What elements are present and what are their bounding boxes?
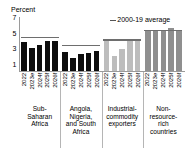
bar: [29, 48, 35, 72]
category-caption-angola-nigeria-south-africa: Angola, Nigeria, and South Africa: [60, 104, 101, 151]
average-line: [144, 30, 182, 31]
x-axis-tick: 2025f: [168, 73, 174, 88]
x-axis-tick: 2025f: [44, 73, 50, 88]
y-axis-tick-1: 1: [13, 61, 17, 68]
bar: [45, 41, 51, 72]
bar-group-industrial-commodity-exporters: [102, 17, 143, 72]
x-axis-tick: 2026f: [52, 73, 58, 88]
x-axis-tick: 2024f: [78, 73, 84, 88]
bar: [145, 30, 151, 72]
average-line: [62, 45, 100, 46]
bar: [86, 53, 92, 72]
x-axis-tick: 2026f: [94, 73, 100, 88]
bar: [70, 58, 76, 72]
x-axis-tick: 2026f: [135, 73, 141, 88]
bar: [21, 42, 27, 72]
bar: [119, 49, 125, 72]
category-caption-industrial-commodity-exporters: Industrial- commodity exporters: [102, 104, 143, 151]
bar: [135, 41, 141, 72]
x-axis-tick: 2025f: [127, 73, 133, 88]
bar: [127, 41, 133, 72]
bar-groups: [19, 17, 184, 72]
average-line: [103, 39, 141, 40]
x-axis-tick: 2022: [21, 73, 27, 86]
bar: [62, 52, 68, 72]
average-line: [21, 37, 59, 38]
bar-chart-figure: Percent 2000-19 average 7 5 3 1: [0, 0, 188, 153]
category-caption-non-resource-rich-countries: Non- resource- rich countries: [143, 104, 184, 151]
y-axis-tick-3: 3: [13, 45, 17, 52]
bar: [37, 45, 43, 72]
category-caption-sub-saharan-africa: Sub- Saharan Africa: [19, 104, 60, 151]
bar: [94, 51, 100, 72]
bar: [161, 30, 167, 72]
x-axis-tick: 2024f: [37, 73, 43, 88]
y-axis-tick-5: 5: [13, 29, 17, 36]
bar: [112, 56, 118, 72]
bar: [52, 41, 58, 72]
category-captions: Sub- Saharan Africa Angola, Nigeria, and…: [19, 104, 184, 151]
x-axis-tick-group-0: 2022 2023e 2024f 2025f 2026f: [19, 73, 60, 103]
x-axis-tick: 2023e: [111, 73, 117, 89]
x-axis-tick: 2024f: [119, 73, 125, 88]
x-axis-tick: 2022: [62, 73, 68, 86]
x-axis-tick: 2023e: [152, 73, 158, 89]
plot-area: 7 5 3 1: [19, 17, 184, 72]
x-axis-tick: 2023e: [70, 73, 76, 89]
x-axis-tick-group-2: 2022 2023e 2024f 2025f 2026f: [102, 73, 143, 103]
bar: [78, 54, 84, 72]
x-axis-tick: 2022: [144, 73, 150, 86]
bar: [104, 41, 110, 72]
x-axis-tick: 2026f: [176, 73, 182, 88]
bar: [153, 30, 159, 72]
x-axis-tick: 2022: [103, 73, 109, 86]
x-axis-tick: 2025f: [86, 73, 92, 88]
x-axis-tick: 2024f: [160, 73, 166, 88]
x-axis-tick-labels: 2022 2023e 2024f 2025f 2026f 2022 2023e …: [19, 73, 184, 103]
x-axis-tick: 2023e: [29, 73, 35, 89]
bar: [176, 30, 182, 72]
y-axis-tick-7: 7: [13, 14, 17, 21]
bar-group-non-resource-rich-countries: [143, 17, 184, 72]
x-axis-tick-group-3: 2022 2023e 2024f 2025f 2026f: [143, 73, 184, 103]
bar: [168, 28, 174, 72]
x-axis-tick-group-1: 2022 2023e 2024f 2025f 2026f: [60, 73, 101, 103]
bar-group-sub-saharan-africa: [19, 17, 60, 72]
bar-group-angola-nigeria-south-africa: [60, 17, 101, 72]
